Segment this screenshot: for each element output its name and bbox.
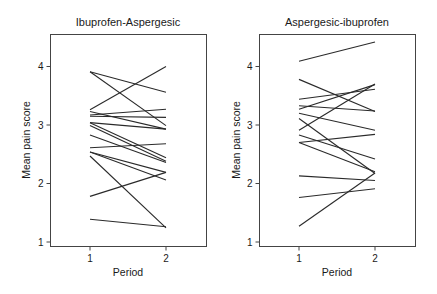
panel-aspergesic-ibuprofen: Aspergesic-ibuprofen 1234 12 Period Mean… [230,16,416,278]
x-tick-label: 2 [372,253,378,264]
y-tick-label: 2 [247,178,253,189]
subject-lines [299,42,375,226]
subject-line [299,189,375,198]
subject-line [90,135,166,162]
x-axis: 12 [296,247,378,264]
subject-line [90,156,166,228]
x-tick-label: 1 [87,253,93,264]
x-axis-label: Period [322,266,353,278]
y-axis: 1234 [38,61,51,248]
subject-line [90,144,166,148]
x-tick-label: 1 [296,253,302,264]
subject-line [299,119,375,174]
y-tick-label: 1 [247,237,253,248]
x-axis: 12 [87,247,169,264]
subject-line [90,116,166,117]
subject-lines [90,67,166,228]
panel-ibuprofen-aspergesic: Ibuprofen-Aspergesic 1234 12 Period Mean… [20,16,207,278]
subject-line [90,219,166,227]
subject-line [299,173,375,226]
y-tick-label: 2 [38,178,44,189]
y-axis: 1234 [247,61,260,248]
subject-line [90,72,166,92]
subject-line [90,172,166,196]
x-axis-label: Period [113,266,144,278]
subject-line [299,176,375,181]
subject-line [299,42,375,61]
subject-line [90,67,166,110]
y-tick-label: 4 [38,61,44,72]
panel-title: Aspergesic-ibuprofen [285,16,389,28]
subject-line [299,113,375,130]
chart-canvas: Ibuprofen-Aspergesic 1234 12 Period Mean… [0,0,437,294]
y-tick-label: 3 [247,120,253,131]
y-axis-label: Mean pain score [20,101,32,179]
plot-frame [260,35,416,247]
x-tick-label: 2 [163,253,169,264]
subject-line [90,152,166,172]
y-tick-label: 1 [38,237,44,248]
panel-title: Ibuprofen-Aspergesic [76,16,181,28]
y-tick-label: 4 [247,61,253,72]
subject-line [299,85,375,110]
subject-line [90,109,166,115]
y-tick-label: 3 [38,120,44,131]
y-axis-label: Mean pain score [230,101,242,179]
